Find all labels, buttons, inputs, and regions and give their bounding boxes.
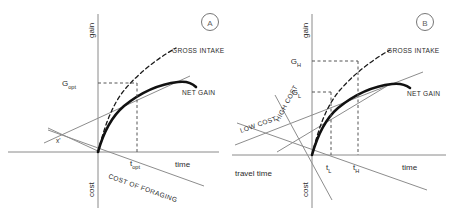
panel-b-gross-intake-curve (312, 50, 390, 155)
panel-b-badge: B (417, 14, 434, 31)
panel-a: gain cost time GROSS INTAKE NET GAIN COS… (0, 0, 227, 216)
panel-b-badge-letter: B (422, 19, 427, 28)
panel-b: gain cost time travel time GROSS INTAKE … (227, 0, 454, 216)
panel-a-y-axis-gain-label: gain (87, 23, 96, 38)
panel-a-cost-of-foraging-label: COST OF FORAGING (108, 172, 179, 203)
panel-a-angle-label: x' (56, 137, 61, 144)
panel-b-gain-high-marker: GH (291, 57, 301, 68)
panel-b-time-low-marker: tL (326, 163, 331, 174)
panel-a-gross-intake-label: GROSS INTAKE (172, 47, 225, 54)
panel-b-y-axis-gain-label: gain (301, 23, 310, 38)
panel-a-badge-letter: A (207, 19, 213, 28)
panel-a-x-axis-time-label: time (175, 160, 191, 169)
panel-b-gross-intake-label: GROSS INTAKE (387, 47, 440, 54)
foraging-figure: gain cost time GROSS INTAKE NET GAIN COS… (0, 0, 454, 216)
panel-a-time-optimum-marker: topt (130, 159, 140, 170)
panel-a-gain-optimum-marker: Gopt (62, 79, 76, 90)
panel-b-x-axis-time-label: time (402, 163, 418, 172)
panel-b-net-gain-label: NET GAIN (407, 90, 440, 97)
panel-b-y-axis-cost-label: cost (301, 182, 310, 197)
panel-a-y-axis-cost-label: cost (87, 182, 96, 197)
panel-b-gain-low-marker: GL (292, 88, 301, 99)
panel-a-badge: A (202, 14, 219, 31)
panel-b-x-axis-travel-time-label: travel time (235, 169, 272, 178)
panel-a-net-gain-label: NET GAIN (182, 89, 215, 96)
panel-b-net-gain-curve (312, 84, 410, 155)
